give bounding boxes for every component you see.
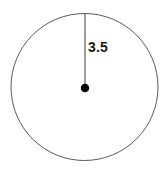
center-dot [81,84,90,93]
radius-length-label: 3.5 [88,39,108,55]
circle-diagram-canvas [0,0,167,171]
geometry-figure: 3.5 [0,0,167,171]
